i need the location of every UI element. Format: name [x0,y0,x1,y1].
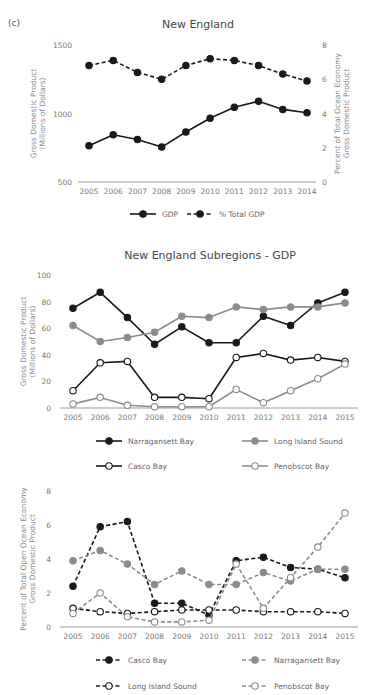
data-point [151,581,157,587]
y2-tick-label: 8 [322,41,327,50]
legend-item: Penobscot Bay [242,682,330,691]
data-point [280,106,286,112]
data-point [260,313,266,319]
data-point [70,610,76,616]
data-point [260,306,266,312]
chart-title: New England Subregions - GDP [124,249,296,262]
x-tick-label: 2009 [176,187,195,196]
legend-label: Long Island Sound [128,682,197,691]
data-point [124,561,130,567]
y-tick-label: 0 [46,404,51,413]
data-point [124,334,130,340]
data-point [134,69,140,75]
data-point [183,129,189,135]
y-tick-label: 4 [46,555,51,564]
y2-tick-label: 4 [322,110,327,119]
legend-label: Penobscot Bay [274,682,330,691]
x-tick-label: 2006 [91,632,110,641]
data-point [233,561,239,567]
legend-item: Long Island Sound [96,682,197,691]
x-tick-label: 2010 [199,413,218,422]
x-tick-label: 2008 [152,187,171,196]
y2-tick-label: 0 [322,178,327,187]
data-point [315,354,321,360]
x-tick-label: 2005 [79,187,98,196]
data-point [124,402,130,408]
data-point [260,605,266,611]
data-point [206,340,212,346]
y-tick-label: 20 [41,377,51,386]
data-point [124,314,130,320]
x-tick-label: 2007 [118,413,137,422]
legend-marker-icon [106,463,112,469]
y2-tick-label: 2 [322,144,327,153]
data-point [287,609,293,615]
data-point [287,304,293,310]
y-axis-label: Percent of Total Open Ocean EconomyGross… [19,487,37,631]
chart-title: New England [162,18,234,31]
data-point [315,566,321,572]
data-point [110,57,116,63]
data-point [97,360,103,366]
chart-subregions-percent: 2005200620072008200920102011201220132014… [19,487,358,691]
legend-label: Narragansett Bay [274,656,340,665]
data-point [315,544,321,550]
y-tick-label: 0 [46,623,51,632]
data-point [233,304,239,310]
data-point [207,56,213,62]
legend-marker-icon [252,683,258,689]
data-point [151,394,157,400]
chart-subregions-gdp: New England Subregions - GDP200520062007… [19,249,358,471]
legend-marker-icon [106,438,112,444]
data-point [97,394,103,400]
y-axis-label: Gross Domestic Product(Millions of Dolla… [19,297,37,387]
data-point [255,62,261,68]
data-point [151,329,157,335]
x-tick-label: 2011 [227,632,246,641]
legend-marker-icon [106,683,112,689]
y-tick-label: 1500 [53,41,72,50]
x-tick-label: 2014 [308,413,327,422]
legend-item: Long Island Sound [242,437,343,446]
y-tick-label: 2 [46,589,51,598]
data-point [110,132,116,138]
data-point [233,607,239,613]
y-tick-label: 1000 [53,110,72,119]
data-point [151,403,157,409]
x-tick-label: 2010 [199,632,218,641]
data-point [287,357,293,363]
data-point [179,607,185,613]
data-point [134,136,140,142]
legend-item: GDP [130,210,179,219]
legend-label: Long Island Sound [274,437,343,446]
data-point [70,305,76,311]
data-point [233,386,239,392]
data-point [151,619,157,625]
x-tick-label: 2005 [63,413,82,422]
x-tick-label: 2009 [172,413,191,422]
legend-item: Casco Bay [96,462,168,471]
data-point [287,564,293,570]
data-point [151,341,157,347]
legend-marker-icon [252,438,258,444]
data-point [315,609,321,615]
data-point [206,395,212,401]
data-point [342,361,348,367]
x-tick-label: 2014 [308,632,327,641]
data-point [97,524,103,530]
y-axis-label: Gross Domestic Product(Millions of Dolla… [29,69,47,159]
data-point [342,610,348,616]
legend-item: Casco Bay [96,656,168,665]
data-point [342,289,348,295]
legend-item: % Total GDP [187,210,265,219]
y-tick-label: 40 [41,351,51,360]
x-tick-label: 2011 [225,187,244,196]
x-tick-label: 2008 [145,413,164,422]
x-tick-label: 2010 [201,187,220,196]
legend-label: Penobscot Bay [274,462,330,471]
series--total-gdp [86,56,310,85]
figure-canvas: New England20052006200720082009201020112… [0,0,380,695]
data-point [97,547,103,553]
series-penobscot-bay [70,361,348,410]
legend-label: Narragansett Bay [128,437,194,446]
